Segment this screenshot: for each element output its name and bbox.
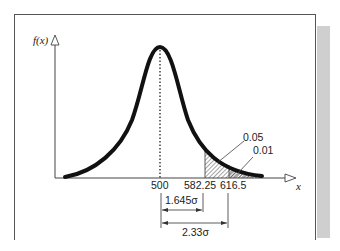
density-curve (65, 47, 262, 177)
leader-0.01 (238, 157, 253, 173)
leader-0.05 (217, 141, 244, 163)
dim2-arrow-right-icon (221, 221, 227, 225)
area-label-0.01: 0.01 (253, 144, 274, 156)
y-axis-arrow-icon (51, 35, 59, 45)
tick-label-582: 582.25 (184, 179, 216, 191)
area-label-0.05: 0.05 (243, 131, 264, 143)
y-axis-label: f(x) (33, 34, 49, 47)
dim2-arrow-left-icon (162, 221, 168, 225)
tail-area-0.01 (229, 60, 265, 178)
tick-label-500: 500 (151, 179, 169, 191)
dim1-arrow-left-icon (162, 208, 168, 212)
normal-distribution-chart: f(x) x 0.05 0.01 500 582.25 616.5 1.645σ… (0, 0, 340, 251)
dim-label-1.645: 1.645σ (165, 194, 198, 206)
tick-label-616: 616.5 (220, 179, 246, 191)
dim-label-2.33: 2.33σ (182, 226, 209, 238)
x-axis-label: x (295, 180, 301, 192)
dim1-arrow-right-icon (196, 208, 202, 212)
x-axis-arrow-icon (285, 174, 296, 182)
